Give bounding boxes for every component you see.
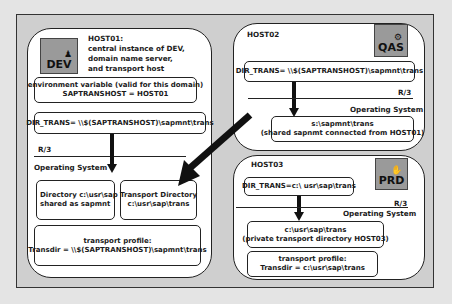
host03-down-arrow	[294, 196, 304, 222]
host01-desc-1: central instance of DEV,	[88, 44, 185, 53]
shared-directory-box: Directory c:\usr\sap shared as sapmnt	[36, 180, 115, 220]
host03-dir-trans: DIR_TRANS=c:\ usr\sap\trans	[242, 182, 356, 191]
host03-private-desc: (private transport directory HOST03)	[242, 235, 389, 244]
host01-profile-label: transport profile:	[83, 237, 151, 246]
host01-profile-box: transport profile: Transdir = \\$(SAPTRA…	[34, 225, 201, 266]
host03-private-path: c:\usr\sap\trans	[285, 226, 347, 235]
host02-down-arrow	[289, 82, 299, 118]
transport-directory-path: c:\usr\sap\trans	[128, 200, 190, 209]
host01-desc-2: domain name server,	[88, 54, 173, 63]
saptranshost-value: SAPTRANSHOST = HOST01	[63, 90, 169, 99]
prd-badge: ✋ PRD	[375, 158, 408, 190]
env-variable-box: environment variable (valid for this dom…	[34, 77, 197, 103]
host03-profile-label: transport profile:	[278, 255, 346, 264]
qas-badge: ⚙ QAS	[374, 24, 408, 57]
host03-dir-trans-box: DIR_TRANS=c:\ usr\sap\trans	[244, 177, 354, 196]
host02-share-desc: (shared sapnmt connected from HOST01)	[261, 129, 425, 138]
host03-title: HOST03	[251, 160, 283, 169]
transport-directory-label: Transport Directory	[120, 191, 197, 200]
host03-transdir: Transdir = c:\usr\sap\trans	[260, 264, 365, 273]
host01-down-arrow	[107, 134, 117, 174]
host01-os-label: Operating System	[34, 163, 107, 172]
host02-title: HOST02	[247, 30, 279, 39]
share-connection-arrow	[170, 110, 255, 190]
directory-path: Directory c:\usr\sap	[40, 191, 118, 200]
host02-dir-trans-box: DIR_TRANS= \\$(SAPTRANSHOST)\sapmnt\tran…	[244, 61, 415, 82]
env-variable-label: environment variable (valid for this dom…	[28, 81, 203, 90]
host02-layer-divider	[248, 98, 413, 99]
host02-os-label: Operating System	[350, 105, 423, 114]
dev-badge: ♟ DEV	[40, 38, 78, 74]
host01-desc-3: and transport host	[88, 64, 164, 73]
host01-r3-label: R/3	[38, 145, 51, 154]
shared-sapmnt-box: s:\sapmnt\trans (shared sapnmt connected…	[271, 116, 414, 142]
private-transport-dir-box: c:\usr\sap\trans (private transport dire…	[247, 221, 384, 248]
host02-dir-trans: DIR_TRANS= \\$(SAPTRANSHOST)\sapmnt\tran…	[236, 67, 423, 76]
host03-os-label: Operating System	[343, 209, 416, 218]
host01-title: HOST01:	[88, 34, 123, 43]
directory-share: shared as sapmnt	[40, 200, 110, 209]
host02-share-path: s:\sapmnt\trans	[311, 120, 373, 129]
host03-profile-box: transport profile: Transdir = c:\usr\sap…	[247, 251, 378, 277]
host02-r3-label: R/3	[398, 88, 411, 97]
host01-transdir: Transdir = \\$(SAPTRANSHOST)\sapmnt\tran…	[28, 246, 206, 255]
